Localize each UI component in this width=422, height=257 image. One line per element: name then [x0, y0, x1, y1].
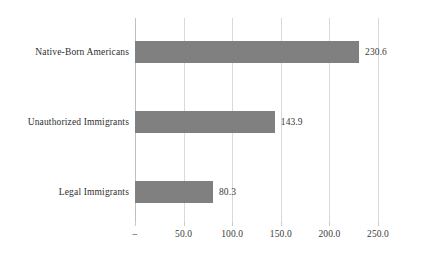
tick-label-150: 150.0 [270, 229, 292, 239]
tick-mark-100 [232, 222, 233, 226]
category-label-unauthorized-immigrants: Unauthorized Immigrants [0, 111, 129, 133]
tick-mark-50 [184, 222, 185, 226]
tick-mark-250 [378, 222, 379, 226]
bar-native-born-americans[interactable] [135, 41, 359, 63]
tick-label-200: 200.0 [318, 229, 340, 239]
tick-label-100: 100.0 [221, 229, 243, 239]
tick-mark-0 [135, 222, 136, 226]
bar-legal-immigrants[interactable] [135, 181, 213, 203]
tick-label-50: 50.0 [175, 229, 192, 239]
category-label-legal-immigrants: Legal Immigrants [0, 181, 129, 203]
tick-label-0: – [133, 229, 138, 239]
bar-value-label: 230.6 [365, 47, 387, 57]
bar-value-label: 80.3 [219, 187, 236, 197]
category-label-native-born-americans: Native-Born Americans [0, 41, 129, 63]
tick-mark-200 [329, 222, 330, 226]
plot-area: 230.6 143.9 80.3 [135, 18, 378, 222]
bar-value-label: 143.9 [281, 117, 303, 127]
bar-unauthorized-immigrants[interactable] [135, 111, 275, 133]
bar-chart: 230.6 143.9 80.3 Native-Born Americans U… [0, 0, 422, 257]
tick-label-250: 250.0 [367, 229, 389, 239]
tick-mark-150 [281, 222, 282, 226]
